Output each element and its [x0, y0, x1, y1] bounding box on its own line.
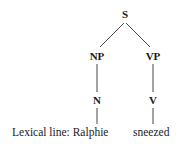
- lexical-verb: sneezed: [133, 127, 169, 139]
- node-n: N: [93, 95, 101, 106]
- node-vp: VP: [146, 51, 161, 62]
- edge-s-np: [100, 23, 124, 47]
- node-np: NP: [90, 51, 105, 62]
- edge-s-vp: [126, 23, 150, 47]
- lexical-line-label: Lexical line: Ralphie: [12, 127, 108, 139]
- node-v: V: [149, 95, 157, 106]
- node-s: S: [122, 9, 128, 20]
